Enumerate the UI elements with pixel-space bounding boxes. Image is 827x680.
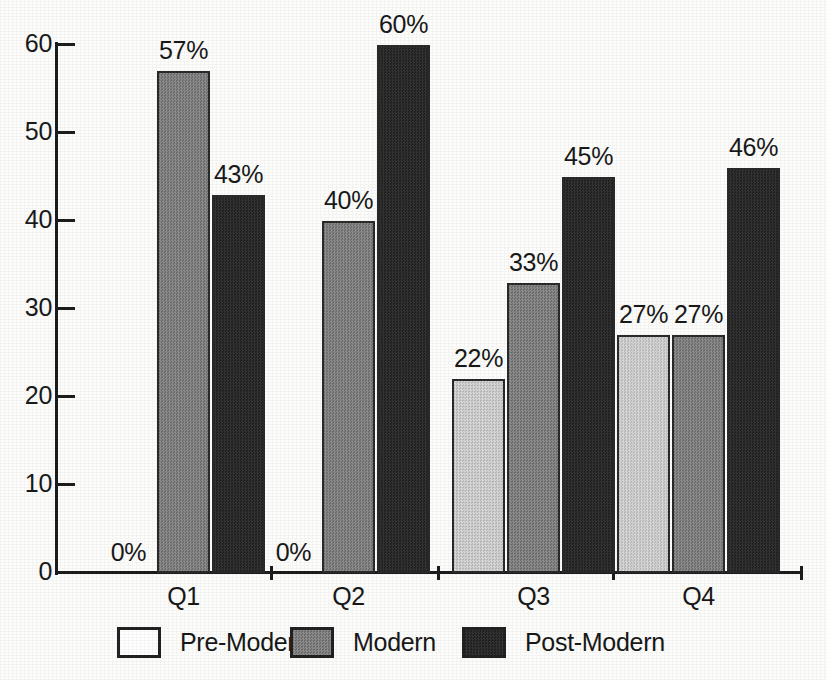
bar [377,45,430,573]
y-axis-tick-label: 50 [8,119,52,144]
legend-item[interactable]: Pre-Modern [117,624,309,660]
x-axis-category-label: Q4 [649,584,749,609]
white-square-icon [117,627,161,658]
bar [617,335,670,573]
bar-value-label: 43% [203,162,274,187]
legend-label: Modern [353,628,436,657]
bar-value-label: 46% [718,135,789,160]
y-axis-tick-label: 60 [8,31,52,56]
x-axis-category-label: Q1 [134,584,234,609]
bar-value-label: 0% [258,540,329,565]
bar-value-label: 57% [148,38,219,63]
bar [672,335,725,573]
y-axis-tick-label: 40 [8,207,52,232]
bar-value-label: 45% [553,144,624,169]
legend-item[interactable]: Post-Modern [462,624,665,660]
x-axis-category-label: Q2 [299,584,399,609]
legend-item[interactable]: Modern [290,624,436,660]
gray-square-icon [290,627,334,658]
bar [727,168,780,573]
bar [562,177,615,573]
bar [322,221,375,573]
legend-label: Post-Modern [525,628,665,657]
bar-chart: 0102030405060 Q1Q2Q3Q4 Pre-ModernModernP… [0,0,827,680]
y-axis-tick-label: 10 [8,471,52,496]
chart-legend: Pre-ModernModernPost-Modern [0,624,827,664]
bar [507,283,560,573]
bar-value-label: 60% [368,12,439,37]
bar-value-label: 0% [93,540,164,565]
bar [452,379,505,573]
y-axis-tick-label: 0 [8,559,52,584]
bar-value-label: 22% [443,346,514,371]
black-square-icon [462,627,506,658]
bar-value-label: 27% [663,302,734,327]
y-axis-tick-label: 20 [8,383,52,408]
bar-value-label: 40% [313,188,384,213]
y-axis-tick-label: 30 [8,295,52,320]
bar [212,195,265,573]
bar [157,71,210,573]
bar-value-label: 33% [498,250,569,275]
x-axis-category-label: Q3 [484,584,584,609]
